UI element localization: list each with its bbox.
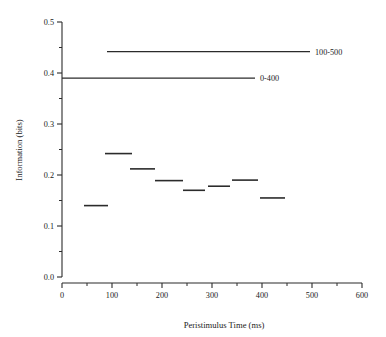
y-tick-label: 0.0 [44, 273, 54, 282]
information-vs-time-chart: 0.00.10.20.30.40.5 0100200300400500600 1… [0, 0, 386, 337]
x-tick-label: 0 [60, 291, 64, 300]
x-axis-ticks: 0100200300400500600 [60, 283, 368, 300]
y-tick-label: 0.2 [44, 171, 54, 180]
data-segments [84, 154, 285, 206]
reference-line-label-100-500: 100-500 [315, 48, 342, 57]
x-axis-title: Peristimulus Time (ms) [184, 320, 265, 330]
x-tick-label: 500 [306, 291, 318, 300]
x-tick-label: 200 [156, 291, 168, 300]
x-tick-label: 400 [256, 291, 268, 300]
y-axis-ticks: 0.00.10.20.30.40.5 [44, 18, 62, 282]
reference-lines: 100-5000-400 [62, 48, 342, 84]
x-tick-label: 100 [106, 291, 118, 300]
y-tick-label: 0.1 [44, 222, 54, 231]
y-tick-label: 0.4 [44, 69, 54, 78]
x-tick-label: 300 [206, 291, 218, 300]
axes [62, 22, 362, 283]
y-tick-label: 0.5 [44, 18, 54, 27]
y-tick-label: 0.3 [44, 120, 54, 129]
chart-figure: 0.00.10.20.30.40.5 0100200300400500600 1… [0, 0, 386, 337]
reference-line-label-0-400: 0-400 [260, 74, 279, 83]
y-axis-title: Information (bits) [14, 119, 24, 180]
x-tick-label: 600 [356, 291, 368, 300]
